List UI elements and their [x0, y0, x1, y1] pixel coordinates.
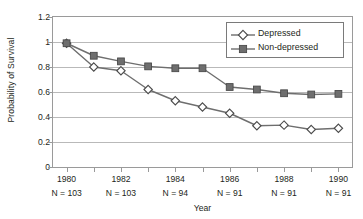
x-axis-tick-mark: [203, 168, 204, 172]
y-axis-tick-mark: [48, 142, 52, 143]
y-axis-tick-label: 0: [18, 163, 50, 172]
x-axis-tick-mark: [94, 168, 95, 172]
y-axis-tick-label: 0.8: [18, 63, 50, 72]
x-axis-tick-mark: [311, 168, 312, 172]
x-axis-tick-mark: [121, 168, 122, 172]
chart-figure: Probability of Survival 00.20.40.60.811.…: [0, 0, 363, 219]
data-point-marker: [281, 90, 288, 97]
x-axis-tick-mark: [175, 168, 176, 172]
x-axis-tick-label: 1990: [308, 174, 363, 184]
data-point-marker: [334, 124, 342, 132]
x-axis-tick-mark: [67, 168, 68, 172]
data-point-marker: [280, 121, 288, 129]
legend-item-1: Depressed: [230, 26, 339, 40]
y-axis-tick-mark: [48, 167, 52, 168]
x-axis-title: Year: [52, 203, 353, 213]
y-axis-tick-mark: [48, 17, 52, 18]
y-axis-tick-labels: 00.20.40.60.811.2: [18, 0, 50, 219]
data-point-marker: [171, 97, 179, 105]
legend-item-label: Depressed: [256, 28, 301, 38]
y-axis-tick-label: 0.6: [18, 88, 50, 97]
data-point-marker: [145, 63, 152, 70]
x-axis-tick-mark: [257, 168, 258, 172]
chart-legend: DepressedNon-depressed: [226, 22, 344, 58]
y-axis-tick-label: 1.2: [18, 13, 50, 22]
x-axis-tick-mark: [148, 168, 149, 172]
x-axis-tick-label: 1988: [254, 174, 314, 184]
y-axis-tick-label: 0.4: [18, 113, 50, 122]
data-point-marker: [225, 109, 233, 117]
data-point-marker: [253, 86, 260, 93]
x-axis-tick-mark: [230, 168, 231, 172]
y-axis-title-text: Probability of Survival: [6, 38, 16, 123]
y-axis-tick-mark: [48, 42, 52, 43]
data-point-marker: [253, 122, 261, 130]
data-point-marker: [90, 52, 97, 59]
legend-open-diamond-icon: [230, 27, 256, 39]
x-axis-tick-mark: [284, 168, 285, 172]
legend-item-2: Non-depressed: [230, 40, 339, 54]
data-point-marker: [226, 84, 233, 91]
x-axis-sample-size-label: N = 91: [303, 188, 363, 198]
y-axis-tick-label: 1: [18, 38, 50, 47]
x-axis-tick-mark: [338, 168, 339, 172]
data-point-marker: [335, 90, 342, 97]
x-axis-tick-label: 1982: [91, 174, 151, 184]
data-point-marker: [307, 125, 315, 133]
x-axis-tick-label: 1984: [145, 174, 205, 184]
data-point-marker: [118, 58, 125, 65]
y-axis-tick-label: 0.2: [18, 138, 50, 147]
y-axis-tick-mark: [48, 92, 52, 93]
data-point-marker: [199, 65, 206, 72]
legend-item-label: Non-depressed: [256, 42, 318, 52]
data-point-marker: [198, 103, 206, 111]
data-point-marker: [172, 65, 179, 72]
y-axis-tick-mark: [48, 67, 52, 68]
x-axis-tick-label: 1986: [200, 174, 260, 184]
data-point-marker: [308, 91, 315, 98]
legend-filled-square-icon: [230, 41, 256, 53]
data-point-marker: [63, 40, 70, 47]
x-axis-tick-label: 1980: [37, 174, 97, 184]
y-axis-tick-mark: [48, 117, 52, 118]
